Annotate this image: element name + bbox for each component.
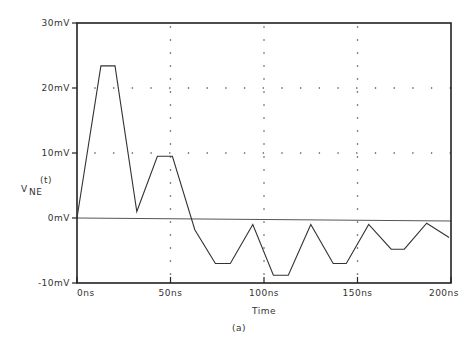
grid-dot <box>225 152 227 154</box>
grid-dot <box>263 117 265 119</box>
figure-caption: (a) <box>232 323 246 333</box>
y-tick-label: 0mV <box>48 213 70 223</box>
svg-text:(t): (t) <box>40 175 52 185</box>
x-tick-label: 0ns <box>77 288 95 298</box>
grid-dot <box>375 152 377 154</box>
grid-dot <box>357 26 359 28</box>
grid-dot <box>300 87 302 89</box>
grid-dot <box>170 26 172 28</box>
grid-dot <box>281 152 283 154</box>
grid-dot <box>281 87 283 89</box>
grid-dot <box>357 169 359 171</box>
grid-dot <box>357 52 359 54</box>
grid-dot <box>356 152 358 154</box>
grid-dot <box>170 247 172 249</box>
grid-dot <box>169 87 171 89</box>
grid-dot <box>263 130 265 132</box>
grid-dot <box>150 152 152 154</box>
grid-dot <box>393 152 395 154</box>
grid-dot <box>263 273 265 275</box>
grid-dot <box>113 87 115 89</box>
y-tick-label: 20mV <box>42 83 71 93</box>
x-axis: 0ns50ns100ns150ns200ns <box>77 277 459 298</box>
grid-dot <box>263 143 265 145</box>
grid-dot <box>170 169 172 171</box>
grid-dot <box>431 87 433 89</box>
grid-dot <box>300 152 302 154</box>
grid-dot <box>357 91 359 93</box>
grid-dot <box>263 247 265 249</box>
y-tick-label: -10mV <box>38 278 70 288</box>
grid-dot <box>357 208 359 210</box>
grid-dot <box>263 195 265 197</box>
grid-dot <box>263 39 265 41</box>
grid-dot <box>170 130 172 132</box>
grid-dot <box>356 87 358 89</box>
grid-dot <box>170 52 172 54</box>
grid-dot <box>263 182 265 184</box>
y-axis-label: V NE (t) <box>21 175 52 197</box>
grid-dot <box>170 65 172 67</box>
chart: -10mV0mV10mV20mV30mV 0ns50ns100ns150ns20… <box>0 0 474 347</box>
grid-dot <box>170 104 172 106</box>
x-axis-label: Time <box>251 306 276 316</box>
grid-dot <box>263 104 265 106</box>
grid-dot <box>357 117 359 119</box>
grid-dot <box>357 130 359 132</box>
grid-dot <box>263 260 265 262</box>
grid-dot <box>170 182 172 184</box>
grid-dot <box>170 260 172 262</box>
y-tick-label: 10mV <box>42 148 71 158</box>
grid-dot <box>263 221 265 223</box>
grid-dot <box>150 87 152 89</box>
grid-dot <box>244 87 246 89</box>
grid-dot <box>337 87 339 89</box>
grid-dot <box>393 87 395 89</box>
grid-dot <box>263 152 265 154</box>
grid-dot <box>206 87 208 89</box>
grid-dot <box>357 182 359 184</box>
grid-dot <box>357 273 359 275</box>
x-tick-label: 150ns <box>342 288 372 298</box>
grid-dot <box>357 156 359 158</box>
grid-dot <box>357 104 359 106</box>
grid-dot <box>244 152 246 154</box>
grid-dot <box>357 234 359 236</box>
grid-dot <box>375 87 377 89</box>
grid-dot <box>188 87 190 89</box>
grid-dot <box>170 221 172 223</box>
grid-dot <box>357 78 359 80</box>
grid-dot <box>263 52 265 54</box>
svg-text:NE: NE <box>29 187 42 197</box>
grid-dot <box>170 273 172 275</box>
grid-dot <box>132 87 134 89</box>
grid-dot <box>357 221 359 223</box>
grid-dot <box>357 195 359 197</box>
grid-dot <box>132 152 134 154</box>
grid-dot <box>263 87 265 89</box>
grid-dot <box>225 87 227 89</box>
svg-text:V: V <box>21 184 28 194</box>
series-line <box>77 66 449 275</box>
grid-dot <box>263 78 265 80</box>
y-axis: -10mV0mV10mV20mV30mV <box>38 18 77 288</box>
grid-dot <box>170 39 172 41</box>
grid-dot <box>263 234 265 236</box>
grid-dot <box>431 152 433 154</box>
grid-dot <box>170 234 172 236</box>
grid-dot <box>206 152 208 154</box>
grid-dot <box>412 152 414 154</box>
grid-dot <box>357 65 359 67</box>
zero-line <box>77 218 451 221</box>
grid-dot <box>357 143 359 145</box>
grid <box>94 26 451 275</box>
grid-dot <box>169 152 171 154</box>
grid-dot <box>263 156 265 158</box>
grid-dot <box>319 152 321 154</box>
grid-dot <box>94 87 96 89</box>
x-tick-label: 100ns <box>249 288 279 298</box>
grid-dot <box>412 87 414 89</box>
grid-dot <box>170 91 172 93</box>
grid-dot <box>170 195 172 197</box>
grid-dot <box>319 87 321 89</box>
